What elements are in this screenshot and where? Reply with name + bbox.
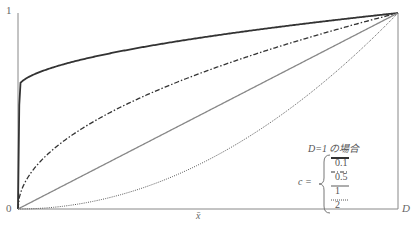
x-axis-label: x̄: [196, 210, 200, 221]
origin-tick: 0: [6, 202, 12, 214]
legend-item-0.1: 0.1: [331, 156, 348, 168]
legend-brace-icon: [318, 154, 332, 214]
legend-item-0.5: 0.5: [331, 170, 348, 182]
x-end-tick: D: [402, 202, 410, 214]
legend-param: c =: [298, 176, 312, 187]
legend-item-2: 2: [331, 198, 340, 210]
y-top-tick: 1: [6, 4, 12, 16]
legend-item-1: 1: [331, 184, 340, 196]
chart-canvas: [0, 0, 414, 226]
legend-title: D=1 の場合: [308, 140, 359, 155]
